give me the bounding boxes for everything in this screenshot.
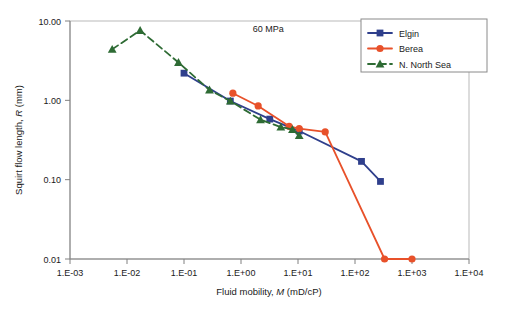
y-axis-title-part-2: (mm): [13, 85, 24, 110]
chart-annotation: 60 MPa: [253, 24, 284, 34]
data-point: [322, 128, 329, 135]
data-point: [181, 70, 188, 77]
x-tick-label: 1.E+00: [227, 268, 256, 278]
legend-marker: [376, 45, 383, 52]
x-tick-label: 1.E-01: [171, 268, 198, 278]
x-tick-label: 1.E+02: [341, 268, 370, 278]
data-point: [229, 90, 236, 97]
y-tick-label: 1.00: [43, 96, 61, 106]
legend-label-elgin: Elgin: [399, 29, 419, 39]
y-tick-label: 10.00: [38, 17, 61, 27]
x-axis-title: Fluid mobility, M (mD/cP): [216, 286, 321, 297]
y-axis-title: Squirt flow length, R (mm): [13, 85, 24, 195]
x-axis-title-symbol: M: [276, 286, 284, 297]
x-tick-label: 1.E+04: [455, 268, 484, 278]
x-tick-label: 1.E+01: [284, 268, 313, 278]
y-axis-title-part-1: Squirt flow length,: [13, 117, 24, 195]
x-tick-label: 1.E+03: [398, 268, 427, 278]
legend-marker: [377, 30, 384, 37]
data-point: [381, 255, 388, 262]
data-point: [377, 178, 384, 185]
legend-label-n-north-sea: N. North Sea: [399, 60, 451, 70]
y-tick-label: 0.01: [43, 255, 61, 265]
chart-legend: ElginBereaN. North Sea: [361, 19, 487, 72]
chart-annotations: 60 MPa: [253, 24, 284, 34]
legend-label-berea: Berea: [399, 44, 423, 54]
data-point: [255, 102, 262, 109]
x-tick-label: 1.E-02: [114, 268, 141, 278]
x-axis-title-part-1: Fluid mobility,: [216, 286, 276, 297]
data-point: [358, 158, 365, 165]
chart-figure: 1.E-031.E-021.E-011.E+001.E+011.E+021.E+…: [0, 0, 511, 312]
data-point: [408, 255, 415, 262]
squirt-flow-length-vs-fluid-mobility-chart: 1.E-031.E-021.E-011.E+001.E+011.E+021.E+…: [0, 0, 511, 312]
y-tick-label: 0.10: [43, 175, 61, 185]
x-tick-label: 1.E-03: [57, 268, 84, 278]
x-axis-title-part-2: (mD/cP): [284, 286, 321, 297]
